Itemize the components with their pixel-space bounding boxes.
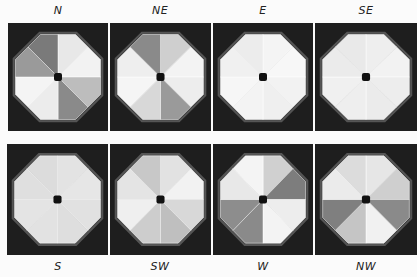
photo-w (213, 144, 313, 255)
label-e: E (213, 4, 313, 17)
label-nw: NW (316, 260, 416, 273)
label-w: W (213, 260, 313, 273)
photo-se (315, 23, 417, 131)
photo-nw (315, 144, 417, 255)
label-n: N (8, 4, 108, 17)
label-s: S (8, 260, 108, 273)
photo-ne (110, 23, 211, 131)
photo-sw (110, 144, 211, 255)
label-sw: SW (110, 260, 210, 273)
photo-n (8, 23, 108, 131)
photo-s (7, 144, 108, 255)
label-se: SE (316, 4, 416, 17)
photo-e (213, 23, 313, 131)
label-ne: NE (110, 4, 210, 17)
